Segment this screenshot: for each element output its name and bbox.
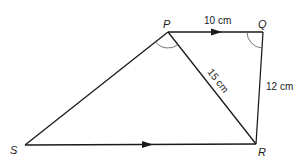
vertex-label-P: P [163,18,171,30]
parallel-arrow-SR-icon [142,141,153,148]
length-label-PR: 15 cm [205,66,230,94]
vertex-label-Q: Q [258,18,267,30]
edge-SP [25,32,168,145]
length-label-QR: 12 cm [266,81,293,92]
angle-mark-P-icon [156,42,179,48]
length-label-PQ: 10 cm [204,15,231,26]
edge-PR [168,32,256,144]
edge-SR [25,144,256,145]
quadrilateral-diagram: P Q S R 10 cm 12 cm 15 cm [0,0,304,165]
angle-mark-Q-icon [247,32,262,48]
vertex-label-S: S [10,144,18,156]
edge-QR [256,32,263,144]
parallel-arrow-PQ-icon [211,29,222,36]
vertex-label-R: R [258,146,266,158]
